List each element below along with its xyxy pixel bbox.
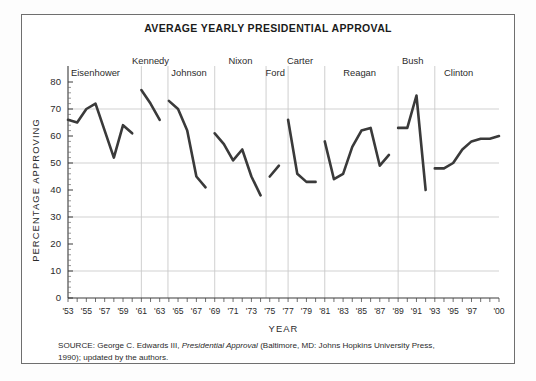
x-tick-label: '69 bbox=[209, 306, 220, 316]
x-tick-label: '71 bbox=[227, 306, 238, 316]
source-note: SOURCE: George C. Edwards III, President… bbox=[58, 340, 478, 363]
source-second-line: 1990); updated by the authors. bbox=[58, 353, 168, 362]
y-tick-label: 70 bbox=[50, 103, 61, 114]
y-tick-label: 80 bbox=[50, 76, 61, 87]
x-tick-label: '75 bbox=[264, 306, 275, 316]
x-tick-label: '55 bbox=[81, 306, 92, 316]
segment-bush bbox=[398, 96, 426, 191]
president-labels: EisenhowerKennedyJohnsonNixonFordCarterR… bbox=[71, 55, 473, 78]
source-prefix: SOURCE: George C. Edwards III, bbox=[58, 341, 182, 350]
president-label: Reagan bbox=[343, 67, 376, 78]
x-tick-label: '81 bbox=[319, 306, 330, 316]
x-tick-label: '61 bbox=[136, 306, 147, 316]
axis-lines bbox=[68, 66, 499, 298]
figure-container: AVERAGE YEARLY PRESIDENTIAL APPROVAL 010… bbox=[0, 0, 536, 381]
segment-eisenhower bbox=[68, 104, 132, 158]
president-label: Nixon bbox=[228, 55, 252, 66]
x-tick-label: '97 bbox=[466, 306, 477, 316]
x-tick-label: '59 bbox=[117, 306, 128, 316]
x-tick-label: '89 bbox=[393, 306, 404, 316]
segment-clinton bbox=[435, 136, 499, 168]
approval-data-line bbox=[68, 90, 499, 195]
president-label: Bush bbox=[402, 55, 423, 66]
x-tick-label: '67 bbox=[191, 306, 202, 316]
y-tick-label: 20 bbox=[50, 238, 61, 249]
x-tick-label: '93 bbox=[429, 306, 440, 316]
x-tick-label: '91 bbox=[411, 306, 422, 316]
approval-line-chart: 01020304050607080 '53'55'57'59'61'63'65'… bbox=[21, 14, 515, 364]
president-label: Eisenhower bbox=[71, 67, 120, 78]
president-label: Ford bbox=[266, 67, 285, 78]
x-tick-label: '57 bbox=[99, 306, 110, 316]
segment-johnson bbox=[169, 101, 206, 187]
x-tick-label: '85 bbox=[356, 306, 367, 316]
y-tick-label: 60 bbox=[50, 130, 61, 141]
x-tick-label: '87 bbox=[374, 306, 385, 316]
x-tick-label: '65 bbox=[172, 306, 183, 316]
source-title: Presidential Approval bbox=[182, 341, 258, 350]
y-axis-ticks bbox=[68, 82, 73, 298]
source-suffix: (Baltimore, MD: Johns Hopkins University… bbox=[258, 341, 435, 350]
x-tick-label: '63 bbox=[154, 306, 165, 316]
president-label: Johnson bbox=[171, 67, 206, 78]
y-axis-tick-labels: 01020304050607080 bbox=[50, 76, 61, 303]
segment-nixon bbox=[215, 133, 261, 195]
x-tick-label: '73 bbox=[246, 306, 257, 316]
president-label: Kennedy bbox=[132, 55, 169, 66]
segment-ford bbox=[270, 166, 279, 177]
segment-kennedy bbox=[141, 90, 159, 120]
segment-reagan bbox=[325, 128, 389, 179]
y-tick-label: 30 bbox=[50, 211, 61, 222]
x-tick-label: '95 bbox=[448, 306, 459, 316]
segment-carter bbox=[288, 120, 316, 182]
x-tick-label: '77 bbox=[282, 306, 293, 316]
president-divider-lines bbox=[141, 66, 434, 298]
y-tick-label: 40 bbox=[50, 184, 61, 195]
y-tick-label: 0 bbox=[56, 292, 61, 303]
y-axis-title: PERCENTAGE APPROVING bbox=[30, 118, 41, 262]
x-tick-label: '00 bbox=[493, 306, 504, 316]
president-label: Carter bbox=[287, 55, 313, 66]
x-axis-title: YEAR bbox=[269, 323, 299, 334]
y-tick-label: 10 bbox=[50, 265, 61, 276]
y-tick-label: 50 bbox=[50, 157, 61, 168]
x-axis-tick-labels: '53'55'57'59'61'63'65'67'69'71'73'75'77'… bbox=[62, 306, 504, 316]
president-label: Clinton bbox=[444, 67, 473, 78]
x-axis-ticks bbox=[68, 298, 499, 302]
x-tick-label: '83 bbox=[338, 306, 349, 316]
x-tick-label: '53 bbox=[62, 306, 73, 316]
x-tick-label: '79 bbox=[301, 306, 312, 316]
